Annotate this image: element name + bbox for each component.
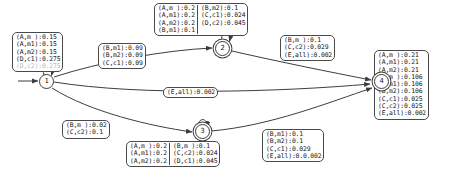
state-node-4[interactable]: 4: [374, 74, 389, 89]
state-node-2[interactable]: 2: [215, 41, 230, 56]
label-box-self-loop-3: (A,m ):0.2 (A,m1):0.2 (A,m2):0.2 (B,m ):…: [126, 141, 220, 167]
label-column-right: (B,m2):0.1 (C,c1):0.024 (D,c2):0.045: [197, 5, 247, 34]
label-row: (E,all):0.002: [378, 110, 426, 117]
state-node-label: 3: [200, 128, 204, 135]
diagram-canvas: (A,m ):0.15 (A,m1):0.15 (A,m2):0.15 (D,c…: [0, 0, 458, 178]
label-row: (E,all):0.002: [284, 52, 332, 59]
label-box-edge-1-to-4: (E,all):0.002: [163, 87, 218, 98]
state-node-label: 4: [379, 78, 383, 85]
label-row: (E,all):0.002: [167, 89, 215, 96]
state-node-label: 2: [220, 45, 224, 52]
label-row: (A,m2):0.2: [130, 158, 167, 165]
label-row: (E,all):0.0.002: [266, 153, 321, 160]
label-box-edge-3-to-4: (B,m1):0.1 (B,m2):0.1 (C,c1):0.029 (E,al…: [262, 129, 324, 162]
state-node-3[interactable]: 3: [195, 124, 210, 139]
label-row: (B,m1):0.1: [158, 27, 195, 34]
state-node-label: 1: [44, 78, 48, 85]
state-node-1[interactable]: 1: [39, 74, 54, 89]
label-box-self-loop-2: (A,m ):0.2 (A,m1):0.2 (A,m2):0.2 (B,m1):…: [154, 3, 248, 36]
label-row: (C,c1):0.09: [102, 60, 143, 67]
label-column-left: (A,m ):0.2 (A,m1):0.2 (A,m2):0.2: [127, 143, 169, 165]
label-box-edge-2-to-4: (B,m ):0.1 (C,c2):0.029 (E,all):0.002: [280, 35, 335, 61]
label-row: (D,c2):0.045: [201, 20, 245, 27]
edge-3-to-4: [211, 88, 372, 131]
label-column-right: (B,m ):0.1 (C,c2):0.024 (D,c1):0.045: [169, 143, 219, 165]
label-row: (D,c1):0.045: [173, 158, 217, 165]
label-row: (C,c2):0.1: [66, 129, 107, 136]
label-box-edge-1-to-2: (B,m1):0.09 (B,m2):0.09 (C,c1):0.09: [98, 43, 146, 69]
label-column-left: (A,m ):0.2 (A,m1):0.2 (A,m2):0.2 (B,m1):…: [155, 5, 197, 34]
label-box-edge-1-to-3: (B,m ):0.02 (C,c2):0.1: [62, 120, 110, 139]
label-box-self-loop-1: (A,m ):0.15 (A,m1):0.15 (A,m2):0.15 (D,c…: [12, 32, 63, 72]
label-row: (D,c2):0.275: [16, 63, 60, 70]
